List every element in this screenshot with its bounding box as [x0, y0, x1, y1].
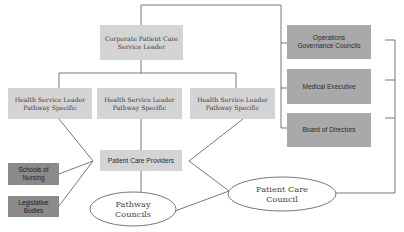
hsl-1-line2: Pathway Specific: [23, 104, 76, 111]
pathway-line2: Councils: [115, 209, 151, 219]
schools-line1: Schools of: [19, 166, 49, 173]
pathway-councils-oval: PathwayCouncils: [90, 192, 176, 226]
legislative-line2: Bodies: [24, 207, 44, 214]
hsl-1-line1: Health Service Leader: [15, 96, 86, 103]
corporate-leader-line2: Service Leader: [118, 43, 165, 50]
patient-care-council-oval: Patient CareCouncil: [228, 177, 336, 211]
medical-executive-label: Medical Executive: [302, 83, 355, 91]
schools-of-nursing-box: Schools ofNursing: [8, 163, 59, 185]
corporate-leader-line1: Corporate Patient Care: [105, 35, 178, 42]
schools-line2: Nursing: [22, 174, 44, 181]
operations-governance-councils-box: OperationsGovernance Councils: [287, 25, 371, 59]
legislative-line1: Legislative: [18, 199, 48, 206]
health-service-leader-box-1: Health Service LeaderPathway Specific: [8, 88, 92, 119]
board-of-directors-label: Board of Directors: [302, 126, 355, 134]
pathway-line1: Pathway: [115, 199, 150, 209]
patient-care-providers-label: Patient Care Providers: [108, 157, 174, 165]
patient-care-providers-box: Patient Care Providers: [100, 150, 182, 171]
legislative-bodies-box: LegislativeBodies: [8, 196, 59, 217]
medical-executive-box: Medical Executive: [287, 69, 371, 104]
hsl-3-line1: Health Service Leader: [197, 96, 268, 103]
board-of-directors-box: Board of Directors: [287, 113, 371, 147]
hsl-3-line2: Pathway Specific: [206, 104, 259, 111]
hsl-2-line2: Pathway Specific: [113, 104, 166, 111]
health-service-leader-box-2: Health Service LeaderPathway Specific: [97, 88, 182, 119]
corporate-leader-box: Corporate Patient CareService Leader: [100, 25, 183, 60]
ogc-line2: Governance Councils: [297, 42, 360, 49]
hsl-2-line1: Health Service Leader: [104, 96, 175, 103]
pcc-line1: Patient Care: [256, 184, 308, 194]
pcc-line2: Council: [266, 194, 298, 204]
ogc-line1: Operations: [313, 34, 345, 41]
health-service-leader-box-3: Health Service LeaderPathway Specific: [190, 88, 275, 119]
